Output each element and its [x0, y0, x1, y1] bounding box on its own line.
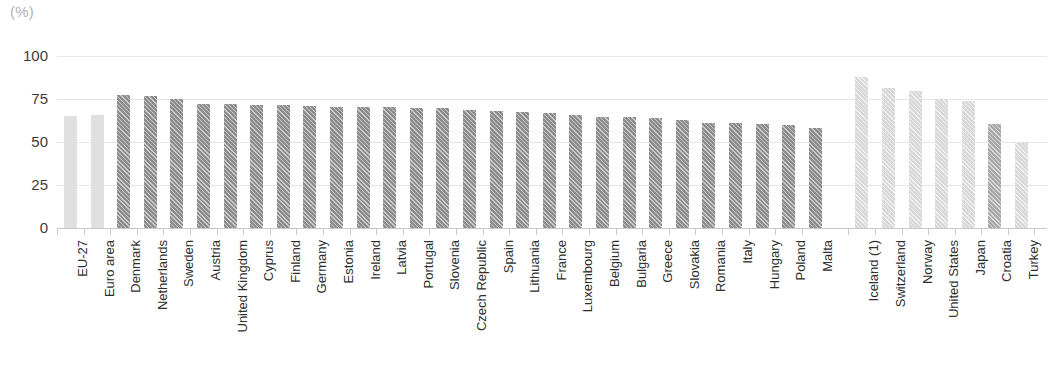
x-axis-tick — [190, 228, 191, 235]
bar[interactable] — [988, 124, 1001, 228]
x-axis-category-label: Euro area — [102, 240, 117, 297]
bar[interactable] — [490, 111, 503, 228]
x-axis-category-label: France — [554, 240, 569, 280]
x-axis-category-label: Hungary — [767, 240, 782, 289]
bar[interactable] — [516, 112, 529, 228]
x-axis-category-label: Poland — [793, 240, 808, 280]
bar[interactable] — [729, 123, 742, 228]
bar[interactable] — [383, 107, 396, 228]
x-axis-category-label: Greece — [660, 240, 675, 283]
x-axis-tick — [722, 228, 723, 235]
x-axis-category-label: Belgium — [607, 240, 622, 287]
x-axis-category-label: Lithuania — [527, 240, 542, 293]
x-axis-category-label: Estonia — [341, 240, 356, 283]
bar[interactable] — [596, 117, 609, 228]
x-axis-tick — [616, 228, 617, 235]
x-axis-tick — [243, 228, 244, 235]
x-axis-tick — [163, 228, 164, 235]
x-axis-category-label: Cyprus — [261, 240, 276, 281]
gridline-100 — [57, 56, 1047, 57]
bar[interactable] — [64, 116, 77, 228]
bar[interactable] — [250, 105, 263, 228]
x-axis-category-label: Norway — [920, 240, 935, 284]
bar[interactable] — [623, 117, 636, 228]
gridline-75 — [57, 99, 1047, 100]
bar[interactable] — [463, 110, 476, 228]
bar[interactable] — [569, 115, 582, 228]
bar[interactable] — [410, 108, 423, 228]
bar[interactable] — [676, 120, 689, 228]
bar[interactable] — [170, 99, 183, 228]
x-axis-tick — [217, 228, 218, 235]
bar[interactable] — [782, 125, 795, 228]
x-axis-tick — [403, 228, 404, 235]
bar[interactable] — [702, 123, 715, 228]
plot-area — [57, 56, 1047, 228]
x-axis-category-label: Slovenia — [447, 240, 462, 290]
bar[interactable] — [649, 118, 662, 228]
bar[interactable] — [303, 106, 316, 228]
bar[interactable] — [882, 88, 895, 228]
x-axis-category-label: Netherlands — [155, 240, 170, 310]
y-tick-label-25: 25 — [0, 176, 48, 193]
x-axis-category-label: Iceland (1) — [866, 240, 881, 301]
x-axis-tick — [376, 228, 377, 235]
x-axis-tick — [955, 228, 956, 235]
x-axis-category-label: Germany — [314, 240, 329, 293]
bar[interactable] — [357, 107, 370, 228]
x-axis-tick — [928, 228, 929, 235]
y-axis-unit-label: (%) — [10, 3, 34, 20]
bar[interactable] — [935, 99, 948, 228]
bar[interactable] — [756, 124, 769, 228]
bar[interactable] — [909, 91, 922, 228]
x-axis-category-label: Latvia — [394, 240, 409, 275]
bar[interactable] — [543, 113, 556, 228]
bar[interactable] — [91, 115, 104, 228]
x-axis-tick — [509, 228, 510, 235]
x-axis-tick — [642, 228, 643, 235]
x-axis-tick — [110, 228, 111, 235]
x-axis-tick — [296, 228, 297, 235]
x-axis-category-label: Portugal — [421, 240, 436, 288]
x-axis-tick — [270, 228, 271, 235]
x-axis-tick — [669, 228, 670, 235]
x-axis-category-label: Malta — [820, 240, 835, 272]
x-axis-tick — [429, 228, 430, 235]
x-axis-tick — [981, 228, 982, 235]
bar[interactable] — [809, 128, 822, 228]
x-axis-tick — [695, 228, 696, 235]
x-axis-category-label: Denmark — [128, 240, 143, 293]
bar[interactable] — [277, 105, 290, 228]
x-axis-category-label: Croatia — [999, 240, 1014, 282]
x-axis-category-label: EU-27 — [75, 240, 90, 277]
x-axis-tick — [323, 228, 324, 235]
bar[interactable] — [144, 96, 157, 228]
bar[interactable] — [855, 77, 868, 228]
x-axis-category-label: Spain — [501, 240, 516, 273]
x-axis-category-label: Ireland — [368, 240, 383, 280]
x-axis-category-label: Bulgaria — [634, 240, 649, 288]
x-axis-category-label: Slovakia — [687, 240, 702, 289]
bar[interactable] — [117, 95, 130, 228]
x-axis-tick — [483, 228, 484, 235]
x-axis-category-label: Turkey — [1026, 240, 1041, 279]
bar-chart: (%) 0255075100 EU-27Euro areaDenmarkNeth… — [0, 0, 1054, 377]
bar[interactable] — [1015, 143, 1028, 228]
bar[interactable] — [330, 107, 343, 228]
x-axis-tick — [1008, 228, 1009, 235]
y-tick-label-50: 50 — [0, 133, 48, 150]
x-axis-category-label: Switzerland — [893, 240, 908, 307]
bar[interactable] — [224, 104, 237, 228]
x-axis-tick — [350, 228, 351, 235]
x-axis-tick — [57, 228, 58, 235]
bar[interactable] — [436, 108, 449, 228]
x-axis-category-label: Czech Republic — [474, 240, 489, 331]
x-axis-tick — [775, 228, 776, 235]
x-axis-tick — [137, 228, 138, 235]
gridline-0 — [57, 228, 1047, 229]
x-axis-category-label: Japan — [973, 240, 988, 275]
bar[interactable] — [197, 104, 210, 228]
x-axis-tick — [589, 228, 590, 235]
bar[interactable] — [962, 101, 975, 228]
x-axis-tick — [456, 228, 457, 235]
